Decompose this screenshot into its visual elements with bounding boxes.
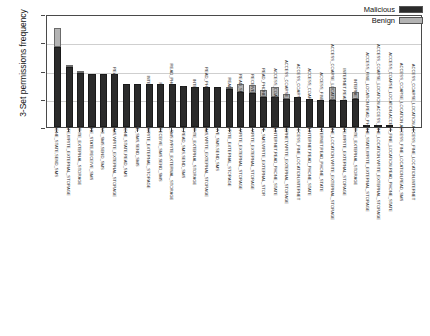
y-axis-title: 3-Set permissions frequency xyxy=(18,0,28,133)
x-label-cell: ACCESS_COARSE_LOCATION,INTERNET,WRITE_EX… xyxy=(281,132,293,336)
x-label-cell: READ_SMS,RECEIVE_SMS,SEND_SMS xyxy=(212,132,224,336)
x-label-cell: INTERNET,READ_PHONE_STATE,WRITE_EXTERNAL… xyxy=(339,132,351,336)
x-label-cell: ACCESS_COARSE_LOCATION,ACCESS_FINE_LOCAT… xyxy=(408,132,420,336)
legend-label-benign: Benign xyxy=(372,16,395,25)
x-label-cell: ACCESS_COARSE_LOCATION,ACCESS_FINE_LOCAT… xyxy=(385,132,397,336)
x-axis-label: ACCESS_COARSE_LOCATION,INTERNET,READ_PHO… xyxy=(272,68,276,196)
x-axis-label: INTERNET,READ_SMS,WRITE_EXTERNAL_STORAGE xyxy=(192,79,196,186)
x-axis-label: INTERNET,READ_PHONE_STATE,WRITE_EXTERNAL… xyxy=(341,68,345,196)
y-tick-mark xyxy=(41,72,45,73)
x-axis-label: READ_PHONE_STATE,RECEIVE_SMS,SEND_SMS xyxy=(157,82,161,181)
x-axis-label: ACCESS_FINE_LOCATION,READ_PHONE_STATE,WR… xyxy=(364,52,368,212)
x-label-cell: INTERNET,READ_PHONE_STATE,RECEIVE_SMS xyxy=(86,132,98,336)
x-axis-label: INTERNET,READ_SMS,SEND_SMS xyxy=(134,98,138,167)
x-label-cell: INTERNET,SEND_SMS,WRITE_EXTERNAL_STORAGE xyxy=(74,132,86,336)
x-label-cell: INTERNET,READ_SMS,SEND_SMS xyxy=(132,132,144,336)
x-axis-labels: INTERNET,READ_PHONE_STATE,SEND_SMSINTERN… xyxy=(46,132,422,336)
x-axis-label: READ_SMS,RECEIVE_SMS,SEND_SMS xyxy=(215,93,219,171)
x-label-cell: READ_PHONE_STATE,READ_SMS,SEND_SMS xyxy=(178,132,190,336)
chart-legend: Malicious Benign xyxy=(361,3,426,27)
x-axis-label: INTERNET,READ_PHONE_STATE,RECEIVE_SMS xyxy=(88,84,92,181)
x-label-cell: INTERNET,READ_SMS,WRITE_EXTERNAL_STORAGE xyxy=(189,132,201,336)
x-axis-label: ACCESS_COARSE_LOCATION,ACCESS_FINE_LOCAT… xyxy=(399,63,403,202)
x-axis-label: INTERNET,SEND_SMS,WRITE_EXTERNAL_STORAGE xyxy=(77,79,81,186)
x-label-cell: ACCESS_COARSE_LOCATION,INTERNET,READ_PHO… xyxy=(270,132,282,336)
x-label-cell: READ_PHONE_STATE,RECEIVE_SMS,WRITE_EXTER… xyxy=(258,132,270,336)
x-axis-label: ACCESS_COARSE_LOCATION,ACCESS_FINE_LOCAT… xyxy=(295,64,299,200)
x-label-cell: ACCESS_COARSE_LOCATION,ACCESS_FINE_LOCAT… xyxy=(396,132,408,336)
y-tick-mark xyxy=(41,128,45,129)
x-axis-label: ACCESS_COARSE_LOCATION,ACCESS_FINE_LOCAT… xyxy=(410,64,414,200)
x-axis-label: ACCESS_COARSE_LOCATION,ACCESS_FINE_LOCAT… xyxy=(376,44,380,220)
x-axis-label: READ_SMS,RECEIVE_SMS,WRITE_EXTERNAL_STOR… xyxy=(238,74,242,190)
x-axis-label: ACCESS_COARSE_LOCATION,ACCESS_FINE_LOCAT… xyxy=(330,44,334,220)
legend-item-benign: Benign xyxy=(372,16,423,25)
y-tick-mark xyxy=(41,43,45,44)
x-label-cell: ACCESS_FINE_LOCATION,READ_PHONE_STATE,WR… xyxy=(362,132,374,336)
x-label-cell: READ_PHONE_STATE,RECEIVE_SMS,WRITE_EXTER… xyxy=(166,132,178,336)
x-axis-label: ACCESS_FINE_LOCATION,INTERNET,READ_PHONE… xyxy=(318,72,322,191)
x-label-cell: RECEIVE_SMS,SEND_SMS,WRITE_EXTERNAL_STOR… xyxy=(247,132,259,336)
legend-label-malicious: Malicious xyxy=(364,5,395,14)
x-axis-label: READ_PHONE_STATE,RECEIVE_SMS,WRITE_EXTER… xyxy=(169,64,173,201)
x-axis-label: READ_PHONE_STATE,SEND_SMS,WRITE_EXTERNAL… xyxy=(111,67,115,197)
x-axis-label: READ_PHONE_STATE,READ_SMS,WRITE_EXTERNAL… xyxy=(203,67,207,197)
x-label-cell: INTERNET,READ_PHONE_STATE,SEND_SMS xyxy=(51,132,63,336)
y-tick-mark xyxy=(41,100,45,101)
x-axis-label: ACCESS_COARSE_LOCATION,ACCESS_FINE_LOCAT… xyxy=(387,52,391,212)
x-axis-label: INTERNET,READ_PHONE_STATE,SEND_SMS xyxy=(54,87,58,177)
x-axis-label: ACCESS_COARSE_LOCATION,INTERNET,WRITE_EX… xyxy=(284,60,288,204)
legend-item-malicious: Malicious xyxy=(364,5,423,14)
x-label-cell: READ_SMS,RECEIVE_SMS,WRITE_EXTERNAL_STOR… xyxy=(235,132,247,336)
x-axis-label: READ_PHONE_STATE,RECEIVE_SMS,WRITE_EXTER… xyxy=(261,68,265,196)
x-label-cell: INTERNET,READ_SMS,WRITE_EXTERNAL_STORAGE xyxy=(350,132,362,336)
x-label-cell: INTERNET,READ_PHONE_STATE,WRITE_EXTERNAL… xyxy=(63,132,75,336)
x-axis-label: INTERNET,READ_PHONE_STATE,READ_SMS xyxy=(123,87,127,177)
x-label-cell: READ_PHONE_STATE,READ_SMS,WRITE_EXTERNAL… xyxy=(201,132,213,336)
x-label-cell: ACCESS_COARSE_LOCATION,ACCESS_FINE_LOCAT… xyxy=(373,132,385,336)
x-label-cell: READ_PHONE_STATE,SEND_SMS,WRITE_EXTERNAL… xyxy=(109,132,121,336)
x-label-cell: ACCESS_COARSE_LOCATION,INTERNET,READ_PHO… xyxy=(304,132,316,336)
x-axis-label: INTERNET,READ_SMS,WRITE_EXTERNAL_STORAGE xyxy=(353,79,357,186)
x-axis-label: RECEIVE_SMS,SEND_SMS,WRITE_EXTERNAL_STOR… xyxy=(249,74,253,190)
x-label-cell: INTERNET,READ_PHONE_STATE,READ_SMS xyxy=(120,132,132,336)
x-axis-label: READ_SMS,SEND_SMS,WRITE_EXTERNAL_STORAGE xyxy=(226,77,230,186)
legend-swatch-benign xyxy=(399,17,423,24)
x-label-cell: READ_PHONE_STATE,RECEIVE_SMS,SEND_SMS xyxy=(155,132,167,336)
x-axis-label: INTERNET,RECEIVE_SMS,WRITE_EXTERNAL_STOR… xyxy=(146,75,150,188)
x-label-cell: INTERNET,RECEIVE_SMS,SEND_SMS xyxy=(97,132,109,336)
x-label-cell: INTERNET,RECEIVE_SMS,WRITE_EXTERNAL_STOR… xyxy=(143,132,155,336)
legend-swatch-malicious xyxy=(399,6,423,13)
bar-segment-benign[interactable] xyxy=(54,28,61,47)
x-label-cell: READ_SMS,SEND_SMS,WRITE_EXTERNAL_STORAGE xyxy=(224,132,236,336)
chart-root: 3-Set permissions frequency 00.250.50.75… xyxy=(0,0,430,336)
x-label-cell: ACCESS_FINE_LOCATION,INTERNET,READ_PHONE… xyxy=(316,132,328,336)
x-label-cell: ACCESS_COARSE_LOCATION,ACCESS_FINE_LOCAT… xyxy=(327,132,339,336)
x-axis-label: ACCESS_COARSE_LOCATION,INTERNET,READ_PHO… xyxy=(307,68,311,196)
x-axis-label: INTERNET,READ_PHONE_STATE,WRITE_EXTERNAL… xyxy=(65,68,69,196)
y-tick-mark xyxy=(41,15,45,16)
x-axis-label: READ_PHONE_STATE,READ_SMS,SEND_SMS xyxy=(180,86,184,178)
x-label-cell: ACCESS_COARSE_LOCATION,ACCESS_FINE_LOCAT… xyxy=(293,132,305,336)
x-axis-label: INTERNET,RECEIVE_SMS,SEND_SMS xyxy=(100,94,104,170)
